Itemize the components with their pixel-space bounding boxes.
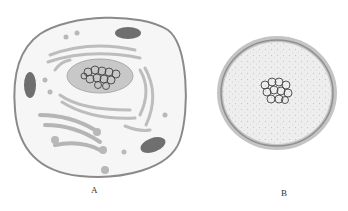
cell-b-label: B (281, 188, 287, 198)
cell-diagram (0, 0, 348, 211)
cell-b (217, 36, 337, 150)
cell-a (14, 18, 185, 177)
cell-a-label: A (91, 185, 98, 195)
cell-a-membrane (14, 18, 185, 177)
